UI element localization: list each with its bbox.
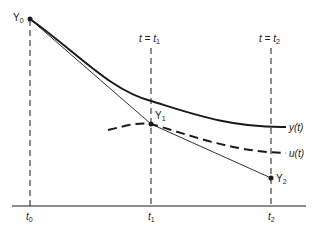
label-y2-sub: 2 — [283, 178, 287, 185]
label-t-eq-t1-base: t = t — [139, 33, 156, 44]
label-t-eq-t2-base: t = t — [259, 33, 276, 44]
label-curve-y: y(t) — [289, 123, 303, 133]
tick-t0: t0 — [26, 212, 33, 223]
label-t-eq-t2: t = t2 — [259, 34, 280, 45]
point-y2 — [269, 176, 274, 181]
label-y2-base: Y — [276, 173, 283, 184]
tick-t2: t2 — [268, 212, 275, 223]
label-y1-base: Y — [155, 110, 162, 121]
point-y1 — [149, 122, 154, 127]
label-y0: Y0 — [13, 13, 24, 24]
label-y0-sub: 0 — [20, 17, 24, 24]
label-t-eq-t1-sub: 1 — [156, 38, 160, 45]
label-t-eq-t2-sub: 2 — [276, 38, 280, 45]
label-y1-sub: 1 — [162, 115, 166, 122]
label-t-eq-t1: t = t1 — [139, 34, 160, 45]
tick-t2-sub: 2 — [271, 216, 275, 223]
label-y0-base: Y — [13, 12, 20, 23]
diagram-canvas: Y0 Y1 Y2 t = t1 t = t2 y(t) u(t) t0 t1 t… — [0, 0, 322, 233]
point-y0 — [28, 17, 33, 22]
tick-t1: t1 — [148, 212, 155, 223]
label-y1: Y1 — [155, 111, 166, 122]
label-y2: Y2 — [276, 174, 287, 185]
tick-t1-sub: 1 — [151, 216, 155, 223]
curve-u — [108, 123, 286, 153]
label-curve-u: u(t) — [289, 149, 304, 159]
tick-t0-sub: 0 — [29, 216, 33, 223]
